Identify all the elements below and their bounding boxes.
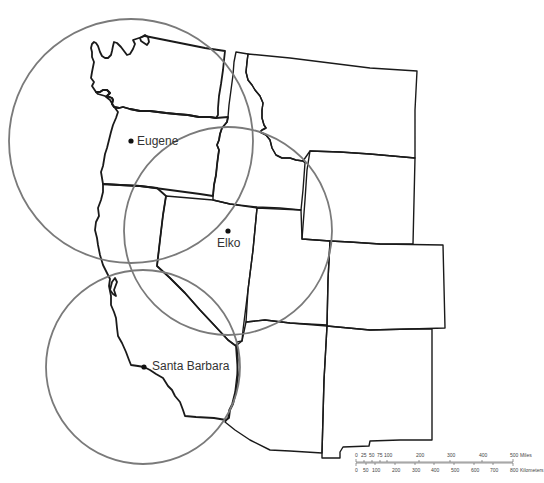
scale-miles-label: Miles [520, 452, 532, 458]
scale-km-tick-600: 600 [471, 467, 480, 473]
scale-bar: 0 25 50 75 100 200 300 400 500 Miles 0 5… [355, 452, 544, 473]
scale-km-tick-400: 400 [431, 467, 440, 473]
state-colorado [327, 241, 445, 330]
scale-miles-tick-100: 100 [384, 452, 393, 458]
scale-km-tick-0: 0 [355, 467, 358, 473]
scale-km-tick-300: 300 [412, 467, 421, 473]
scale-miles-tick-0: 0 [355, 452, 358, 458]
city-label-eugene: Eugene [137, 134, 179, 148]
scale-miles-tick-500: 500 [510, 452, 519, 458]
state-new-mexico [322, 326, 432, 458]
city-marker-eugene [128, 138, 133, 143]
city-marker-santa-barbara [141, 364, 146, 369]
scale-km-tick-500: 500 [451, 467, 460, 473]
scale-miles-tick-200: 200 [416, 452, 425, 458]
scale-km-tick-700: 700 [490, 467, 499, 473]
state-montana [246, 54, 417, 161]
state-california [95, 184, 238, 420]
scale-km-tick-100: 100 [372, 467, 381, 473]
scale-km-tick-50: 50 [363, 467, 369, 473]
western-us-map: Eugene Elko Santa Barbara 0 25 50 75 100 [0, 0, 544, 483]
state-arizona [225, 320, 327, 453]
scale-miles-tick-50: 50 [369, 452, 375, 458]
city-label-elko: Elko [217, 236, 241, 250]
scale-km-label: Kilometers [520, 467, 544, 473]
scale-miles-tick-75: 75 [377, 452, 383, 458]
scale-miles-tick-400: 400 [479, 452, 488, 458]
scale-km-tick-200: 200 [392, 467, 401, 473]
state-nevada [157, 196, 257, 346]
city-label-santa-barbara: Santa Barbara [152, 359, 230, 373]
state-washington [91, 36, 225, 118]
city-marker-elko [225, 228, 230, 233]
state-utah [246, 208, 330, 325]
scale-miles-tick-25: 25 [361, 452, 367, 458]
scale-miles-tick-300: 300 [447, 452, 456, 458]
state-wyoming [302, 151, 415, 244]
scale-km-tick-800: 800 [510, 467, 519, 473]
